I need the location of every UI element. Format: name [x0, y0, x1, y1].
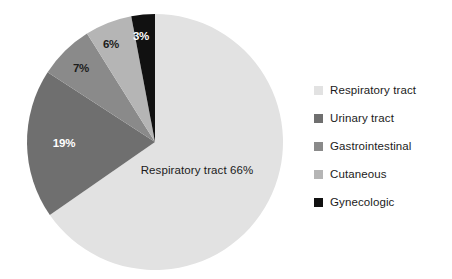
legend-item-respiratory-tract[interactable]: Respiratory tract [314, 76, 452, 104]
legend-item-label: Respiratory tract [330, 84, 416, 96]
pie-slices [27, 14, 283, 270]
legend-swatch-icon [314, 114, 323, 123]
legend-item-label: Gastrointestinal [330, 140, 412, 152]
legend-item-label: Urinary tract [330, 112, 394, 124]
pie-chart-figure: Respiratory tract 66% 19% 7% 6% 3% Respi… [0, 0, 452, 279]
legend-item-gastrointestinal[interactable]: Gastrointestinal [314, 132, 452, 160]
legend-item-label: Gynecologic [330, 196, 394, 208]
legend-swatch-icon [314, 86, 323, 95]
legend-swatch-icon [314, 142, 323, 151]
legend-item-label: Cutaneous [330, 168, 387, 180]
legend-item-cutaneous[interactable]: Cutaneous [314, 160, 452, 188]
legend-swatch-icon [314, 170, 323, 179]
legend-swatch-icon [314, 198, 323, 207]
chart-legend: Respiratory tract Urinary tract Gastroin… [314, 76, 452, 216]
pie-svg [0, 0, 300, 279]
pie-plot-area: Respiratory tract 66% 19% 7% 6% 3% [0, 0, 300, 279]
legend-item-gynecologic[interactable]: Gynecologic [314, 188, 452, 216]
legend-item-urinary-tract[interactable]: Urinary tract [314, 104, 452, 132]
